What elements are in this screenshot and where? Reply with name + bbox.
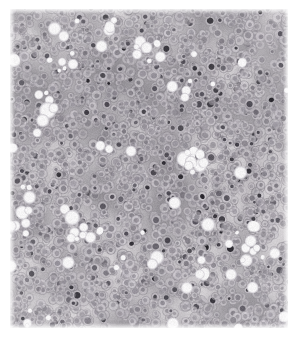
micrograph-frame bbox=[0, 0, 296, 337]
histopathology-image bbox=[10, 9, 288, 328]
micrograph-figure: Histological section: densely cellular f… bbox=[0, 0, 296, 337]
